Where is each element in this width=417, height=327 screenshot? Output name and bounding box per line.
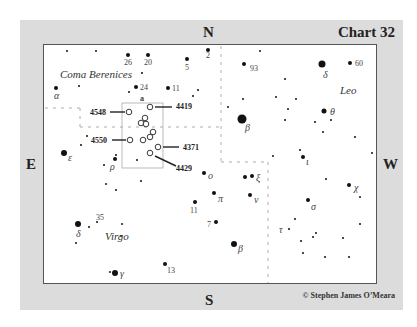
star-icon	[315, 232, 317, 234]
star-icon	[66, 50, 68, 52]
galaxy-label: 4429	[176, 164, 192, 173]
star-icon	[146, 53, 150, 57]
galaxy-icon	[126, 109, 132, 115]
star-icon	[294, 218, 296, 220]
star-icon	[306, 198, 310, 202]
star-label: 11	[190, 206, 198, 215]
star-label: 11	[172, 84, 180, 93]
star-icon	[284, 78, 286, 80]
star-label: σ	[311, 201, 317, 212]
star-icon	[359, 223, 361, 225]
star-label: γ	[120, 268, 125, 279]
star-label: θ	[330, 106, 335, 117]
north-label: N	[203, 24, 214, 41]
star-icon	[348, 61, 352, 65]
galaxies-layer: 44194548455043714429	[90, 102, 199, 173]
star-label: 2	[206, 51, 210, 60]
star-icon	[259, 50, 261, 52]
star-label: 26	[124, 58, 132, 67]
star-label: 5	[185, 63, 189, 72]
star-icon	[348, 256, 350, 258]
star-label: 60	[355, 59, 363, 68]
star-icon	[134, 85, 138, 89]
star-label: 93	[250, 64, 258, 73]
star-icon	[300, 240, 302, 242]
star-icon	[359, 196, 361, 198]
star-icon	[121, 223, 123, 225]
star-icon	[288, 228, 290, 230]
star-label: δ	[323, 69, 328, 80]
star-icon	[287, 108, 289, 110]
star-label: τ	[279, 224, 283, 235]
star-label: 13	[167, 266, 175, 275]
star-label: 20	[144, 58, 152, 67]
star-icon	[185, 57, 189, 61]
galaxy-label: 4371	[183, 143, 199, 152]
star-icon	[141, 72, 143, 74]
star-icon	[347, 183, 351, 187]
star-label: ρ	[109, 161, 115, 172]
constellation-name: Leo	[339, 84, 357, 96]
star-icon	[330, 119, 332, 121]
west-label: W	[383, 156, 398, 173]
star-label: 24	[140, 83, 148, 92]
star-icon	[78, 85, 80, 87]
constellation-labels: Coma BerenicesLeoVirgo	[60, 68, 357, 242]
stars-layer: 2620522411α93δ60θβερoξπν117βιχστδ3513γ	[54, 48, 373, 279]
star-icon	[342, 237, 344, 239]
star-label: ι	[306, 156, 309, 167]
star-icon	[371, 152, 373, 154]
star-label: 7	[207, 220, 211, 229]
star-label: o	[208, 170, 213, 181]
star-icon	[136, 159, 138, 161]
star-label: α	[54, 90, 60, 101]
galaxy-label: 4550	[91, 136, 107, 145]
star-icon	[88, 226, 90, 228]
galaxy-icon	[147, 150, 153, 156]
south-label: S	[205, 292, 213, 309]
galaxy-label: 4548	[90, 108, 106, 117]
galaxy-icon	[147, 104, 153, 110]
star-icon	[325, 178, 327, 180]
star-icon	[86, 135, 88, 137]
star-icon	[295, 98, 297, 100]
star-icon	[115, 154, 117, 156]
star-icon	[192, 95, 194, 97]
star-icon	[128, 91, 130, 93]
leader-line	[155, 156, 176, 166]
star-icon	[197, 89, 199, 91]
field-box-label: a	[140, 94, 144, 103]
star-label: ξ	[256, 172, 261, 184]
star-icon	[75, 221, 81, 227]
star-icon	[272, 155, 274, 157]
star-icon	[212, 191, 216, 195]
star-icon	[242, 98, 244, 100]
galaxy-icon	[147, 134, 153, 140]
star-icon	[103, 164, 105, 166]
star-icon	[322, 131, 324, 133]
star-label: β	[244, 122, 250, 133]
star-icon	[202, 171, 206, 175]
chart-title: Chart 32	[338, 24, 395, 41]
star-icon	[250, 174, 254, 178]
star-icon	[112, 270, 118, 276]
star-icon	[322, 109, 327, 114]
star-icon	[140, 180, 142, 182]
star-icon	[95, 50, 97, 52]
star-icon	[275, 96, 277, 98]
star-icon	[105, 183, 107, 185]
star-label: χ	[353, 182, 359, 193]
star-icon	[299, 149, 301, 151]
star-label: 35	[96, 213, 104, 222]
star-icon	[193, 200, 197, 204]
star-icon	[227, 106, 229, 108]
star-label: ε	[68, 152, 72, 163]
east-label: E	[26, 156, 36, 173]
star-icon	[214, 220, 218, 224]
constellation-name: Virgo	[105, 230, 129, 242]
star-map: a 2620522411α93δ60θβερoξπν117βιχστδ3513γ…	[0, 0, 417, 327]
galaxy-icon	[143, 121, 149, 127]
star-icon	[166, 86, 170, 90]
copyright-credit: © Stephen James O’Meara	[303, 291, 395, 300]
star-icon	[231, 241, 237, 247]
